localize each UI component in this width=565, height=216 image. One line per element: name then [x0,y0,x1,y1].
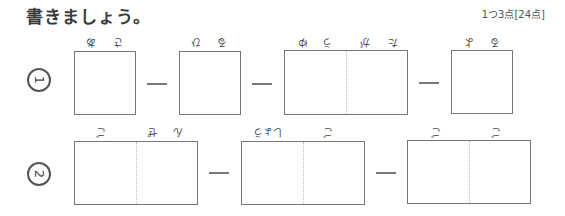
box-label: ご [491,126,501,141]
answer-box-hiru[interactable] [179,51,241,115]
answer-box-yoru[interactable] [451,50,513,114]
dash-separator [252,83,272,85]
box-label: あ [86,36,96,51]
dash-separator [376,172,396,174]
box-label: さ [113,36,123,51]
answer-box-asa[interactable] [74,51,136,115]
box-label: る [490,36,500,51]
answer-box-yuugata[interactable] [284,50,408,115]
score-label: 1つ3点[24点] [482,6,545,21]
box-label: ひ [191,36,201,51]
box-label: ぜ [147,126,157,141]
box-label: た [388,36,398,51]
row-number-1: 1 [27,68,51,92]
box-label: ご [431,126,441,141]
box-label: る [217,36,227,51]
box-label: が [360,36,370,51]
box-label: ご [96,126,106,141]
answer-box-gogo[interactable] [407,140,531,204]
box-label: ん [173,126,183,141]
answer-box-shougo[interactable] [241,141,365,205]
box-label: よ [464,36,474,51]
box-label: ご [323,126,333,141]
box-label: う [322,36,332,51]
box-label: ゆ [298,36,308,51]
dash-separator [147,83,167,85]
answer-box-gozen[interactable] [74,141,198,205]
row-number-2: 2 [27,162,51,186]
box-label: しょう [253,126,283,141]
instruction-title: 書きましょう。 [26,3,151,28]
dash-separator [209,172,229,174]
dash-separator [419,82,439,84]
